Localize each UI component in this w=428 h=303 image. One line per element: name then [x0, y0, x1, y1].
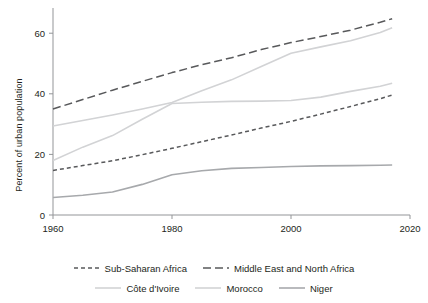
chart-container: Percent of urban population 020406019601… [0, 0, 428, 303]
legend-item[interactable]: Niger [279, 283, 333, 294]
series-line [53, 165, 392, 197]
legend-item[interactable]: Côte d'Ivoire [95, 283, 179, 294]
legend-label: Côte d'Ivoire [126, 283, 179, 294]
svg-text:0: 0 [40, 210, 45, 221]
legend-swatch-icon [74, 264, 100, 272]
chart-legend: Sub-Saharan AfricaMiddle East and North … [0, 258, 428, 298]
svg-text:1960: 1960 [42, 223, 63, 234]
legend-row-primary: Sub-Saharan AfricaMiddle East and North … [0, 258, 428, 278]
svg-text:2000: 2000 [280, 223, 301, 234]
legend-label: Middle East and North Africa [234, 263, 354, 274]
series-line [53, 28, 392, 126]
legend-swatch-icon [279, 284, 305, 292]
line-chart-plot: 02040601960198020002020 [0, 0, 428, 258]
svg-text:1980: 1980 [161, 223, 182, 234]
svg-text:60: 60 [34, 28, 45, 39]
legend-item[interactable]: Sub-Saharan Africa [74, 263, 187, 274]
legend-item[interactable]: Morocco [195, 283, 262, 294]
legend-label: Sub-Saharan Africa [105, 263, 187, 274]
legend-item[interactable]: Middle East and North Africa [203, 263, 354, 274]
legend-swatch-icon [203, 264, 229, 272]
legend-swatch-icon [195, 284, 221, 292]
legend-swatch-icon [95, 284, 121, 292]
series-line [53, 19, 392, 109]
svg-text:2020: 2020 [399, 223, 420, 234]
svg-text:20: 20 [34, 149, 45, 160]
series-line [53, 83, 392, 160]
legend-label: Niger [310, 283, 333, 294]
legend-row-secondary: Côte d'IvoireMoroccoNiger [0, 278, 428, 298]
svg-text:40: 40 [34, 88, 45, 99]
legend-label: Morocco [226, 283, 262, 294]
series-line [53, 95, 392, 170]
